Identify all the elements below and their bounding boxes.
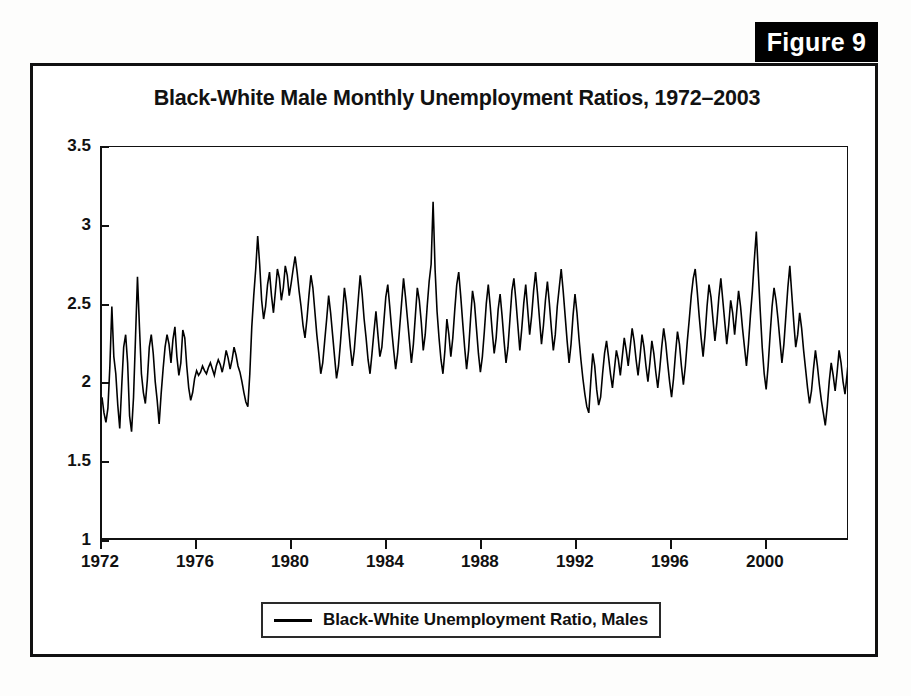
figure-root: Figure 9 Black-White Male Monthly Unempl… (0, 0, 911, 696)
y-axis-tick-label: 2.5 (67, 294, 91, 314)
x-axis-tick-mark (195, 540, 197, 549)
figure-number-tab: Figure 9 (755, 22, 878, 62)
y-axis-tick-label: 3 (82, 215, 91, 235)
x-axis-tick-mark (385, 540, 387, 549)
series-polyline (102, 202, 847, 432)
x-axis-tick-label: 1992 (556, 552, 594, 572)
chart-title: Black-White Male Monthly Unemployment Ra… (33, 86, 881, 111)
x-axis-tick-mark (100, 540, 102, 549)
x-axis-tick-label: 1980 (271, 552, 309, 572)
y-axis-tick-label: 2 (82, 372, 91, 392)
x-axis-tick-label: 1996 (651, 552, 689, 572)
x-axis-tick-mark (480, 540, 482, 549)
y-axis-tick-label: 1 (82, 530, 91, 550)
x-axis-tick-label: 1988 (461, 552, 499, 572)
series-line-chart (102, 147, 847, 538)
y-axis-tick-label: 3.5 (67, 136, 91, 156)
legend-line-swatch (274, 619, 312, 622)
x-axis-tick-mark (575, 540, 577, 549)
figure-number-label: Figure 9 (767, 30, 867, 55)
plot-area (100, 146, 848, 540)
y-axis-tick-label: 1.5 (67, 451, 91, 471)
legend-entry-label: Black-White Unemployment Ratio, Males (323, 610, 648, 630)
x-axis-tick-labels: 19721976198019841988199219962000 (100, 552, 848, 580)
x-axis-tick-label: 1976 (176, 552, 214, 572)
x-axis-tick-label: 1984 (366, 552, 404, 572)
x-axis-tick-mark (290, 540, 292, 549)
chart-legend: Black-White Unemployment Ratio, Males (261, 602, 661, 638)
x-axis-tick-mark (765, 540, 767, 549)
x-axis-tick-label: 2000 (746, 552, 784, 572)
x-axis-tick-mark (670, 540, 672, 549)
figure-frame: Black-White Male Monthly Unemployment Ra… (30, 63, 878, 657)
x-axis-tick-label: 1972 (81, 552, 119, 572)
y-axis-tick-labels: 11.522.533.5 (33, 146, 91, 540)
